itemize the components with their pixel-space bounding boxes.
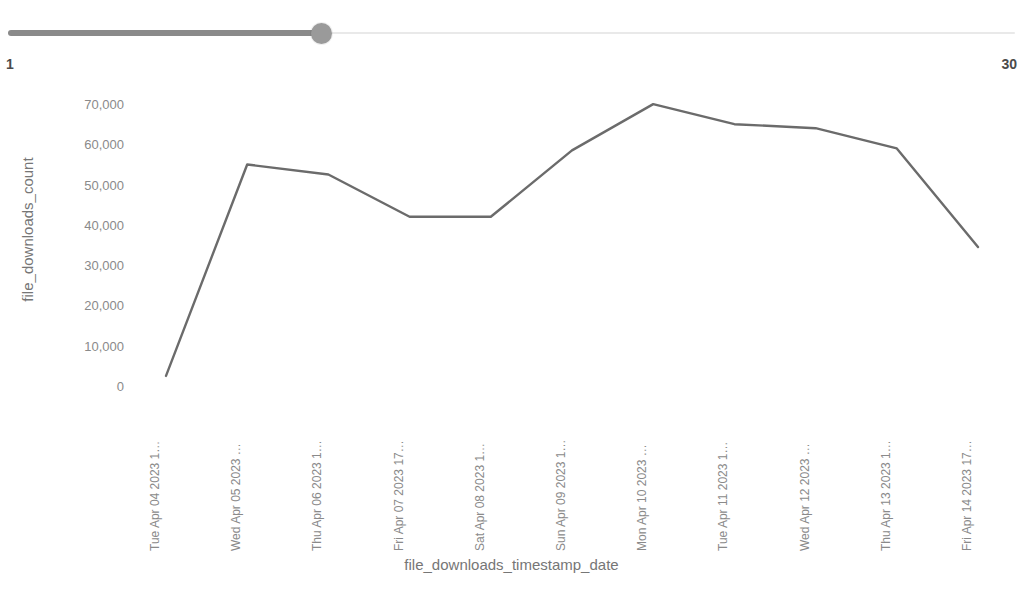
- x-axis-title: file_downloads_timestamp_date: [0, 556, 1023, 573]
- x-axis-tick-label: Fri Apr 07 2023 17…: [393, 440, 405, 551]
- slider-handle[interactable]: [311, 23, 332, 44]
- plot-area: [140, 96, 1010, 386]
- slider-region: 10 1 30: [0, 0, 1023, 86]
- x-axis-tick-label: Wed Apr 12 2023 …: [799, 443, 811, 551]
- y-axis-tick-labels: 010,00020,00030,00040,00050,00060,00070,…: [0, 96, 132, 386]
- x-axis-tick-label: Fri Apr 14 2023 17…: [961, 440, 973, 551]
- y-axis-tick-label: 40,000: [84, 217, 124, 232]
- slider-track-fill[interactable]: [8, 30, 321, 36]
- y-axis-tick-label: 50,000: [84, 177, 124, 192]
- y-axis-tick-label: 20,000: [84, 298, 124, 313]
- x-axis-tick-label: Tue Apr 04 2023 1…: [149, 441, 161, 551]
- range-slider[interactable]: [8, 30, 1015, 36]
- y-axis-tick-label: 0: [117, 379, 124, 394]
- series-line-svg: [140, 96, 1010, 386]
- x-axis-tick-label: Sun Apr 09 2023 1…: [555, 440, 567, 551]
- line-chart: file_downloads_count 010,00020,00030,000…: [0, 86, 1023, 603]
- x-axis-tick-label: Thu Apr 13 2023 1…: [880, 440, 892, 551]
- y-axis-tick-label: 30,000: [84, 258, 124, 273]
- x-axis-tick-label: Wed Apr 05 2023 …: [230, 443, 242, 551]
- slider-max-label: 30: [1001, 56, 1017, 72]
- x-axis-tick-label: Tue Apr 11 2023 1…: [717, 442, 729, 551]
- x-axis-tick-label: Mon Apr 10 2023 …: [636, 444, 648, 551]
- slider-min-label: 1: [6, 56, 14, 72]
- series-line: [166, 104, 978, 376]
- x-axis-tick-label: Thu Apr 06 2023 1…: [311, 440, 323, 551]
- y-axis-tick-label: 10,000: [84, 338, 124, 353]
- x-axis-tick-labels: Tue Apr 04 2023 1…Wed Apr 05 2023 …Thu A…: [140, 391, 1010, 551]
- y-axis-tick-label: 60,000: [84, 137, 124, 152]
- y-axis-tick-label: 70,000: [84, 97, 124, 112]
- x-axis-tick-label: Sat Apr 08 2023 1…: [474, 443, 486, 551]
